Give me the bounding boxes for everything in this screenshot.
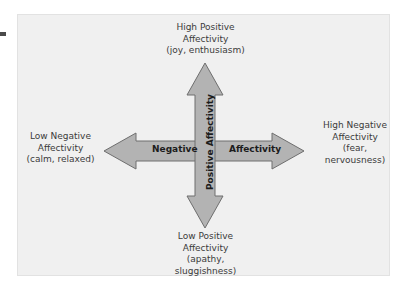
- label-low-positive-affectivity: Low Positive Affectivity (apathy, sluggi…: [133, 231, 278, 277]
- affectivity-diagram: High Positive Affectivity (joy, enthusia…: [0, 0, 403, 297]
- axis-caption-positive-affectivity: Positive Affectivity: [205, 94, 215, 190]
- axis-caption-affectivity: Affectivity: [229, 144, 281, 154]
- label-low-negative-affectivity: Low Negative Affectivity (calm, relaxed): [12, 131, 109, 166]
- label-high-positive-affectivity: High Positive Affectivity (joy, enthusia…: [133, 22, 278, 57]
- axis-caption-negative: Negative: [152, 144, 198, 154]
- label-high-negative-affectivity: High Negative Affectivity (fear, nervous…: [311, 120, 399, 166]
